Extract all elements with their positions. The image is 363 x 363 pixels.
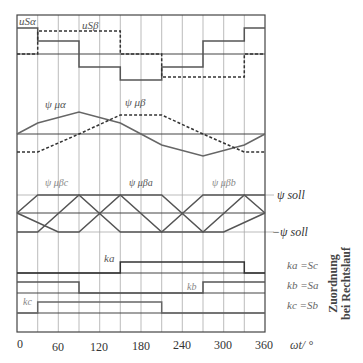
k-b-label: kb bbox=[187, 281, 196, 292]
psi-b-label: ψ μβb bbox=[212, 177, 236, 188]
assignment-title: Zuordnung bei Rechtslauf bbox=[327, 247, 353, 320]
x-tick-120: 120 bbox=[90, 340, 108, 355]
k-c-label: kc bbox=[23, 296, 32, 307]
psi-soll-label: ψ soll bbox=[277, 188, 305, 203]
neg-psi-soll-label: −ψ soll bbox=[272, 225, 308, 240]
psi-beta-label: ψ μβ bbox=[125, 96, 146, 108]
grid-lines bbox=[38, 15, 274, 332]
assignment-kc: kc =Sb bbox=[287, 299, 318, 311]
x-tick-240: 240 bbox=[173, 338, 191, 353]
x-tick-60: 60 bbox=[52, 340, 64, 355]
k-a-label: ka bbox=[104, 252, 114, 264]
x-tick-300: 300 bbox=[214, 338, 232, 353]
psi-c-label: ψ μβc bbox=[45, 177, 68, 188]
x-tick-360: 360 bbox=[255, 338, 273, 353]
u-alpha-label: uSα bbox=[19, 15, 36, 27]
assignment-title-line2: bei Rechtslauf bbox=[340, 247, 353, 320]
psi-alpha-label: ψ μα bbox=[45, 98, 66, 110]
assignment-ka: ka =Sc bbox=[287, 259, 318, 271]
x-axis-label: ωt/ ° bbox=[290, 338, 313, 353]
x-tick-0: 0 bbox=[17, 337, 23, 352]
u-beta-label: uSβ bbox=[82, 19, 98, 31]
assignment-kb: kb =Sa bbox=[287, 279, 319, 291]
x-tick-180: 180 bbox=[132, 339, 150, 354]
psi-a-label: ψ μβa bbox=[129, 177, 153, 188]
